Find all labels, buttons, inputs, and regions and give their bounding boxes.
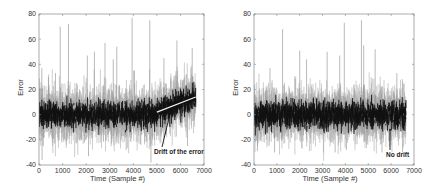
annotation-label: Drift of the error (154, 148, 204, 155)
x-tick-label: 4000 (338, 167, 354, 174)
x-tick-label: 2000 (78, 167, 94, 174)
x-tick-label: 1000 (269, 167, 285, 174)
y-tick-label: 40 (243, 61, 251, 68)
error-signal-series (254, 20, 406, 161)
x-tick-label: 3000 (315, 167, 331, 174)
y-tick-label: 80 (243, 10, 251, 17)
plot-frame (39, 14, 204, 165)
y-tick-label: 0 (32, 111, 36, 118)
x-axis-label: Time (Sample #) (302, 174, 358, 183)
y-axis-label: Error (16, 79, 25, 96)
y-tick-label: 20 (243, 86, 251, 93)
y-tick-label: -20 (26, 136, 36, 143)
x-tick-label: 5000 (149, 167, 165, 174)
annotation-label: No drift (386, 151, 410, 158)
x-tick-label: 2000 (292, 167, 308, 174)
y-tick-label: 80 (28, 10, 36, 17)
x-axis-label: Time (Sample #) (90, 174, 146, 183)
x-tick-label: 6000 (383, 167, 399, 174)
x-tick-label: 0 (37, 167, 41, 174)
y-tick-label: 60 (243, 36, 251, 43)
right-plot-panel: 01000200030004000500060007000-40-2002040… (231, 10, 422, 183)
x-tick-label: 0 (252, 167, 256, 174)
x-tick-label: 1000 (55, 167, 71, 174)
y-tick-label: 40 (28, 61, 36, 68)
error-signal-series (39, 18, 196, 163)
x-tick-label: 7000 (196, 167, 212, 174)
x-tick-label: 4000 (125, 167, 141, 174)
y-tick-label: -40 (241, 161, 251, 168)
x-tick-label: 5000 (360, 167, 376, 174)
x-tick-label: 3000 (102, 167, 118, 174)
y-tick-label: 20 (28, 86, 36, 93)
x-tick-label: 6000 (173, 167, 189, 174)
y-tick-label: 0 (247, 111, 251, 118)
left-plot-panel: 01000200030004000500060007000-40-2002040… (16, 10, 212, 183)
y-tick-label: -20 (241, 136, 251, 143)
chart-figure: 01000200030004000500060007000-40-2002040… (0, 0, 438, 189)
y-tick-label: 60 (28, 36, 36, 43)
x-tick-label: 7000 (406, 167, 422, 174)
y-tick-label: -40 (26, 161, 36, 168)
y-axis-label: Error (231, 79, 240, 96)
